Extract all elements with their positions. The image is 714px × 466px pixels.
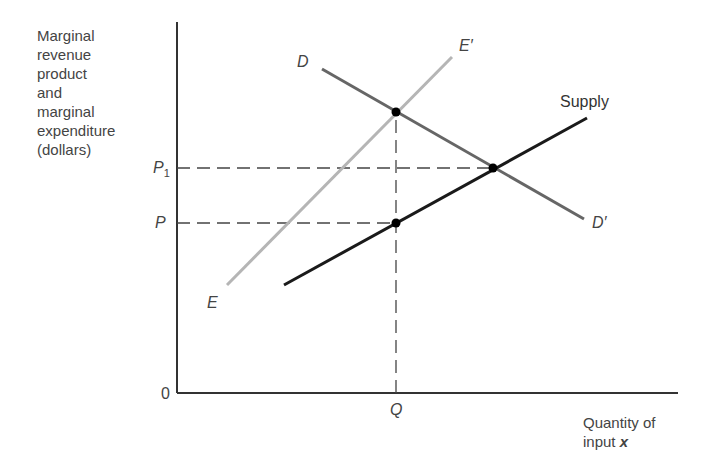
supply-label: Supply — [560, 92, 609, 111]
point-mrp-me — [392, 108, 401, 117]
e-label: E — [207, 293, 218, 312]
ee-line — [227, 57, 452, 285]
x-axis-label: Quantity of input x — [583, 413, 656, 451]
d-label: D — [297, 52, 309, 71]
x-label-line: input x — [583, 432, 656, 451]
d-prime-label: D′ — [592, 213, 607, 232]
dd-line — [322, 69, 584, 219]
point-supply-q — [392, 219, 401, 228]
supply-line — [284, 118, 587, 285]
point-d-supply — [489, 164, 498, 173]
origin-label: 0 — [161, 384, 170, 403]
x-label-line: Quantity of — [583, 413, 656, 432]
chart-plot — [0, 0, 714, 466]
p1-tick-label: P1 — [153, 158, 170, 183]
e-prime-label: E′ — [459, 36, 473, 55]
q-tick-label: Q — [390, 400, 402, 419]
p-tick-label: P — [155, 213, 166, 232]
